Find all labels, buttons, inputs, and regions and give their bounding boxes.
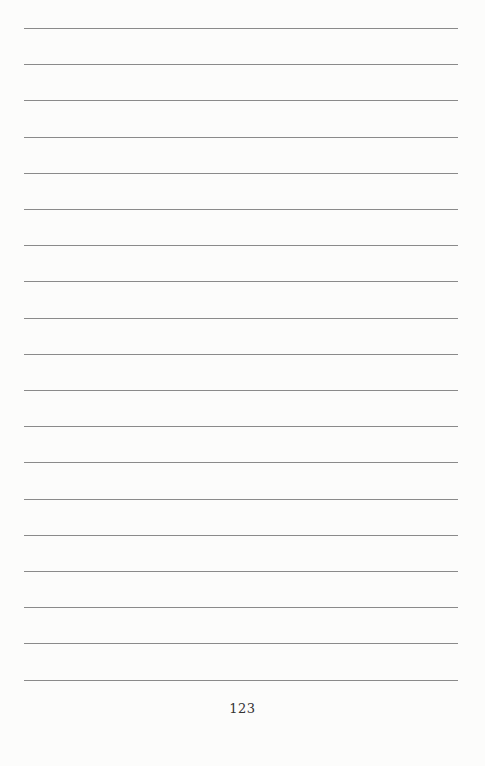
ruled-line [24,462,458,463]
ruled-line [24,100,458,101]
ruled-line [24,245,458,246]
ruled-line [24,209,458,210]
ruled-line [24,173,458,174]
ruled-line [24,28,458,29]
ruled-line [24,137,458,138]
ruled-line [24,64,458,65]
ruled-line [24,281,458,282]
page-number: 123 [0,701,485,716]
ruled-line [24,607,458,608]
ruled-page: 123 [0,0,485,766]
ruled-line [24,318,458,319]
ruled-line [24,643,458,644]
ruled-line [24,426,458,427]
ruled-line [24,680,458,681]
ruled-line [24,535,458,536]
ruled-line [24,390,458,391]
ruled-line [24,354,458,355]
ruled-line [24,499,458,500]
ruled-line [24,571,458,572]
